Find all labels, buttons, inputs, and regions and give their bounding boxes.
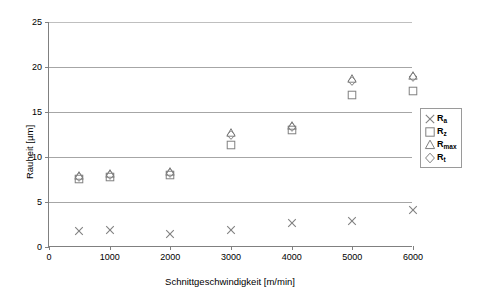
- cross-icon: [424, 113, 435, 124]
- legend-item-label: Rz: [437, 127, 447, 136]
- plot-area: 0510152025 0100020003000400050006000: [48, 22, 412, 247]
- diamond-icon: [424, 152, 435, 163]
- y-axis-tick: [45, 157, 49, 158]
- x-axis-tick: [352, 246, 353, 250]
- x-axis-title: Schnittgeschwindigkeit [m/min]: [48, 276, 412, 287]
- data-point-Rz: [75, 174, 84, 183]
- gridline: [49, 202, 412, 203]
- data-point-Rz: [105, 172, 114, 181]
- gridline: [49, 67, 412, 68]
- x-axis-tick: [231, 246, 232, 250]
- data-point-Ra: [409, 206, 418, 215]
- x-axis-tick-label: 2000: [160, 252, 180, 262]
- y-axis-tick: [45, 112, 49, 113]
- x-axis-tick: [292, 246, 293, 250]
- data-point-Rt: [287, 123, 296, 132]
- x-axis-tick-label: 4000: [282, 252, 302, 262]
- triangle-icon: [424, 139, 435, 150]
- gridline: [49, 157, 412, 158]
- data-point-Rt: [409, 72, 418, 81]
- gridline: [49, 22, 412, 23]
- data-point-Rz: [409, 87, 418, 96]
- data-point-Rt: [105, 171, 114, 180]
- y-axis-tick-label: 10: [32, 152, 42, 162]
- x-axis-tick: [110, 246, 111, 250]
- x-axis-tick-label: 0: [46, 252, 51, 262]
- data-point-Rz: [166, 171, 175, 180]
- data-point-Rz: [348, 90, 357, 99]
- data-point-Rt: [75, 172, 84, 181]
- data-point-Rz: [287, 126, 296, 135]
- data-point-Rmax: [166, 168, 175, 177]
- data-point-Rmax: [227, 128, 236, 137]
- data-point-Ra: [348, 216, 357, 225]
- y-axis-tick: [45, 22, 49, 23]
- y-axis-tick-label: 5: [37, 197, 42, 207]
- data-point-Rmax: [348, 74, 357, 83]
- legend-item-label: Ra: [437, 114, 447, 123]
- data-point-Ra: [227, 225, 236, 234]
- data-point-Rmax: [409, 72, 418, 81]
- legend-item-Ra: Ra: [424, 112, 457, 125]
- x-axis-tick: [413, 246, 414, 250]
- data-point-Rmax: [287, 121, 296, 130]
- data-point-Rz: [227, 141, 236, 150]
- data-point-Rt: [227, 130, 236, 139]
- x-axis-tick-label: 1000: [100, 252, 120, 262]
- y-axis-tick-label: 20: [32, 62, 42, 72]
- x-axis-tick: [170, 246, 171, 250]
- data-point-Ra: [287, 218, 296, 227]
- data-point-Ra: [75, 226, 84, 235]
- data-point-Rt: [348, 76, 357, 85]
- legend-item-Rmax: Rmax: [424, 138, 457, 151]
- chart-figure: Rauheit [µm] 0510152025 0100020003000400…: [0, 0, 482, 303]
- legend-item-label: Rt: [437, 153, 446, 162]
- x-axis-tick-label: 6000: [403, 252, 423, 262]
- y-axis-tick-label: 25: [32, 17, 42, 27]
- x-axis-tick-label: 5000: [342, 252, 362, 262]
- legend-item-label: Rmax: [437, 140, 457, 149]
- square-icon: [424, 126, 435, 137]
- legend-item-Rz: Rz: [424, 125, 457, 138]
- y-axis-tick: [45, 202, 49, 203]
- gridline: [49, 112, 412, 113]
- x-axis-tick: [49, 246, 50, 250]
- y-axis-tick: [45, 67, 49, 68]
- y-axis-tick-label: 15: [32, 107, 42, 117]
- data-point-Ra: [166, 229, 175, 238]
- y-axis-tick-label: 0: [37, 242, 42, 252]
- legend-item-Rt: Rt: [424, 151, 457, 164]
- chart-legend: RaRzRmaxRt: [420, 108, 462, 168]
- data-point-Ra: [105, 225, 114, 234]
- x-axis-tick-label: 3000: [221, 252, 241, 262]
- data-point-Rt: [166, 169, 175, 178]
- data-point-Rmax: [75, 171, 84, 180]
- data-point-Rmax: [105, 170, 114, 179]
